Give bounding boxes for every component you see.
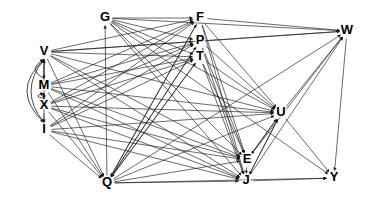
graph-node-m: M (39, 77, 50, 92)
graph-edge (49, 112, 103, 177)
graph-edge-curved (36, 60, 45, 79)
graph-node-x: X (40, 97, 49, 112)
graph-edge (249, 120, 277, 175)
graph-edge (112, 20, 192, 39)
graph-edge (51, 108, 240, 158)
graph-node-e: E (243, 151, 252, 166)
graph-node-y: Y (330, 169, 339, 184)
graph-node-j: J (242, 172, 249, 187)
graph-node-i: I (42, 121, 46, 136)
graph-node-v: V (40, 43, 49, 58)
graph-node-q: Q (102, 174, 112, 189)
graph-node-f: F (196, 9, 204, 24)
graph-edge (203, 48, 244, 153)
graph-edge (207, 32, 339, 41)
graph-edge (251, 119, 276, 154)
edges-layer (27, 18, 346, 183)
graph-edge (115, 178, 327, 183)
graph-edge (51, 114, 273, 130)
graph-edge (51, 20, 192, 51)
graph-edge (286, 37, 343, 107)
graph-edge (202, 25, 244, 153)
graph-edge (51, 89, 239, 178)
graph-edge (51, 131, 239, 159)
graph-node-w: W (341, 22, 354, 37)
graph-canvas: GFWPVTMUXIEYJQ (0, 0, 368, 206)
graph-edge (51, 132, 238, 179)
directed-graph-figure: GFWPVTMUXIEYJQ (0, 0, 368, 206)
graph-edge (286, 119, 330, 172)
graph-edge (250, 37, 343, 175)
graph-node-t: T (196, 48, 204, 63)
graph-edge (52, 106, 274, 113)
graph-edge (51, 43, 193, 84)
graph-edge (252, 37, 343, 154)
graph-edge (51, 59, 193, 104)
graph-node-p: P (196, 32, 205, 47)
graph-node-g: G (100, 9, 110, 24)
graph-edge (50, 135, 102, 178)
graph-node-u: U (276, 104, 285, 119)
graph-edge (114, 116, 274, 180)
graph-edge (335, 38, 347, 170)
